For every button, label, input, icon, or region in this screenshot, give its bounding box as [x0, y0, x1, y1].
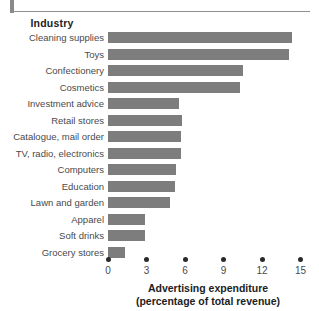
- bar-track: [108, 32, 315, 43]
- bar-row: Investment advice: [0, 98, 319, 115]
- bar-row: Education: [0, 181, 319, 198]
- bar-row: Cleaning supplies: [0, 32, 319, 49]
- chart-page: Industry Cleaning suppliesToysConfection…: [0, 0, 319, 311]
- x-axis: 03691215: [0, 257, 319, 281]
- bar-track: [108, 214, 315, 225]
- header-divider: [10, 11, 310, 12]
- bar-category-label: Investment advice: [0, 98, 104, 110]
- bar-row: Apparel: [0, 214, 319, 231]
- bar-category-label: Retail stores: [0, 115, 104, 127]
- bar-track: [108, 115, 315, 126]
- bar-track: [108, 181, 315, 192]
- bar-track: [108, 148, 315, 159]
- tick-label: 3: [133, 265, 161, 276]
- bar-track: [108, 197, 315, 208]
- bar: [108, 247, 125, 258]
- bar-track: [108, 82, 315, 93]
- industry-column-header: Industry: [0, 17, 104, 29]
- x-axis-title: Advertising expenditure (percentage of t…: [108, 282, 308, 307]
- bar-category-label: Cleaning supplies: [0, 32, 104, 44]
- bar: [108, 131, 181, 142]
- bar-row: TV, radio, electronics: [0, 148, 319, 165]
- bar-category-label: TV, radio, electronics: [0, 148, 104, 160]
- bar: [108, 230, 145, 241]
- bar-track: [108, 49, 315, 60]
- bar: [108, 49, 289, 60]
- bar-row: Computers: [0, 164, 319, 181]
- bar-row: Toys: [0, 49, 319, 66]
- bar: [108, 197, 170, 208]
- tick-label: 0: [94, 265, 122, 276]
- bar-track: [108, 230, 315, 241]
- bar-track: [108, 65, 315, 76]
- bar-track: [108, 164, 315, 175]
- tick-dot-icon: [260, 257, 265, 262]
- bar-category-label: Computers: [0, 164, 104, 176]
- bar: [108, 65, 243, 76]
- bar-row: Confectionery: [0, 65, 319, 82]
- bar-category-label: Catalogue, mail order: [0, 131, 104, 143]
- clipped-heading: [150, 0, 310, 2]
- tick-dot-icon: [221, 257, 226, 262]
- bar-row: Lawn and garden: [0, 197, 319, 214]
- bar: [108, 98, 179, 109]
- bar: [108, 148, 181, 159]
- bar: [108, 82, 240, 93]
- bar-category-label: Cosmetics: [0, 82, 104, 94]
- bar-track: [108, 247, 315, 258]
- bar-row: Soft drinks: [0, 230, 319, 247]
- bar-row: Cosmetics: [0, 82, 319, 99]
- bar-rows: Cleaning suppliesToysConfectioneryCosmet…: [0, 32, 319, 263]
- bar-track: [108, 98, 315, 109]
- tick-dot-icon: [183, 257, 188, 262]
- tick-label: 6: [171, 265, 199, 276]
- bar-row: Catalogue, mail order: [0, 131, 319, 148]
- bar-row: Retail stores: [0, 115, 319, 132]
- bar: [108, 32, 292, 43]
- tick-dot-icon: [144, 257, 149, 262]
- bar: [108, 214, 145, 225]
- bar-category-label: Toys: [0, 49, 104, 61]
- bar-category-label: Education: [0, 181, 104, 193]
- bar-category-label: Soft drinks: [0, 230, 104, 242]
- bar-category-label: Apparel: [0, 214, 104, 226]
- tick-dot-icon: [106, 257, 111, 262]
- tick-label: 9: [210, 265, 238, 276]
- bar-track: [108, 131, 315, 142]
- tick-label: 12: [248, 265, 276, 276]
- bar-category-label: Confectionery: [0, 65, 104, 77]
- tick-dot-icon: [298, 257, 303, 262]
- bar: [108, 181, 175, 192]
- x-axis-title-line2: (percentage of total revenue): [108, 295, 308, 308]
- tick-label: 15: [287, 265, 315, 276]
- x-axis-title-line1: Advertising expenditure: [108, 282, 308, 295]
- bar: [108, 115, 182, 126]
- bar: [108, 164, 176, 175]
- bar-category-label: Lawn and garden: [0, 197, 104, 209]
